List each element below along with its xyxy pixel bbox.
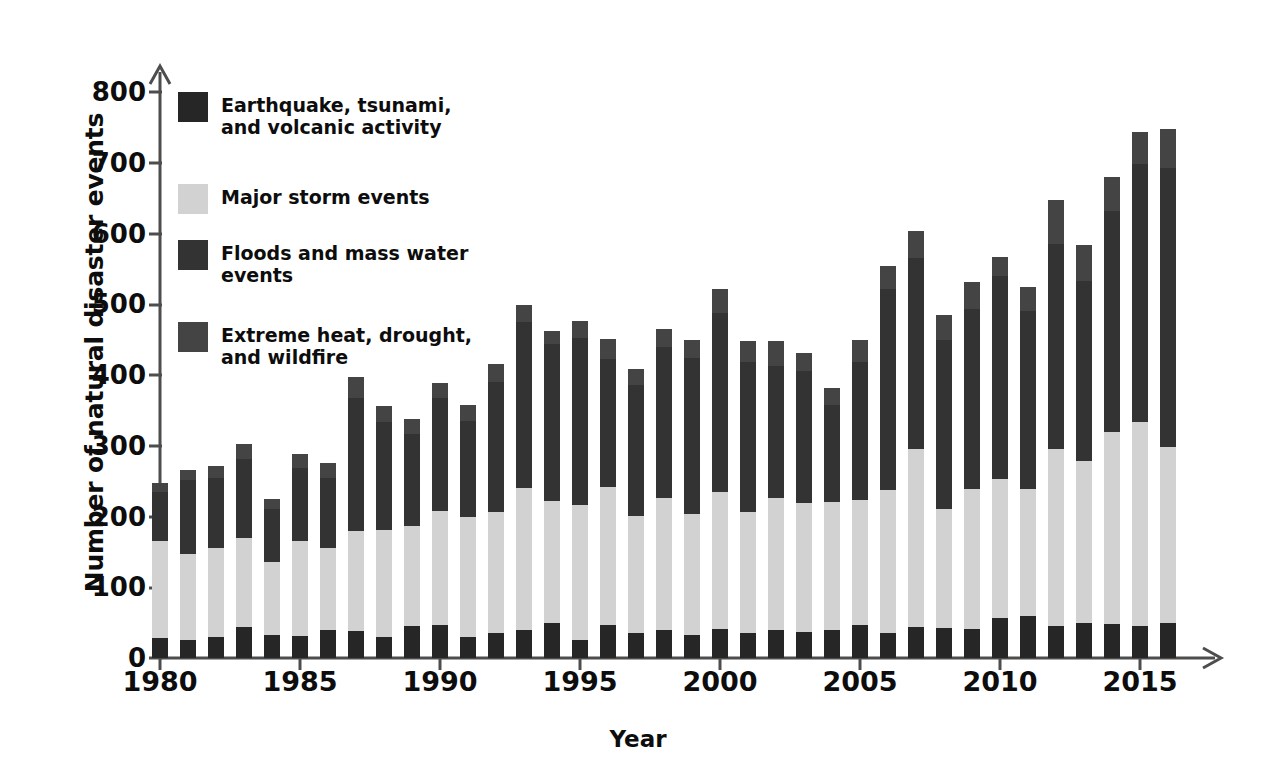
bar-segment-2000-s2	[712, 313, 728, 492]
bar-1983[interactable]	[236, 444, 252, 658]
bar-2013[interactable]	[1076, 245, 1092, 658]
bar-1987[interactable]	[348, 377, 364, 658]
bar-segment-2010-s2	[992, 276, 1008, 479]
bar-segment-2000-s1	[712, 492, 728, 629]
legend-item-1[interactable]: Major storm events	[178, 184, 430, 214]
bar-segment-1990-s3	[432, 383, 448, 398]
bar-1996[interactable]	[600, 339, 616, 658]
bar-segment-2012-s3	[1048, 200, 1064, 244]
bar-2010[interactable]	[992, 257, 1008, 658]
bar-segment-2003-s0	[796, 632, 812, 658]
bar-segment-1993-s2	[516, 322, 532, 488]
bar-1980[interactable]	[152, 483, 168, 658]
bar-segment-1985-s2	[292, 468, 308, 542]
bar-segment-1991-s3	[460, 405, 476, 421]
bar-segment-2013-s3	[1076, 245, 1092, 281]
bar-segment-1994-s1	[544, 501, 560, 623]
bar-2001[interactable]	[740, 341, 756, 658]
bar-2011[interactable]	[1020, 287, 1036, 658]
bar-1995[interactable]	[572, 321, 588, 658]
x-tick-label-2000: 2000	[660, 666, 780, 697]
legend-item-2[interactable]: Floods and mass water events	[178, 240, 468, 286]
legend-item-0[interactable]: Earthquake, tsunami, and volcanic activi…	[178, 92, 451, 138]
bar-segment-2007-s2	[908, 258, 924, 450]
bar-segment-1991-s1	[460, 517, 476, 637]
bar-2002[interactable]	[768, 341, 784, 658]
bar-2003[interactable]	[796, 353, 812, 658]
x-tick-label-2005: 2005	[800, 666, 920, 697]
bar-2015[interactable]	[1132, 132, 1148, 658]
bar-segment-2014-s2	[1104, 211, 1120, 432]
bar-segment-1983-s3	[236, 444, 252, 458]
bar-segment-1996-s1	[600, 487, 616, 626]
bar-1994[interactable]	[544, 331, 560, 658]
bar-segment-1995-s1	[572, 505, 588, 640]
bar-segment-2001-s1	[740, 512, 756, 633]
bar-segment-1996-s3	[600, 339, 616, 360]
bar-1998[interactable]	[656, 329, 672, 658]
bar-segment-2011-s2	[1020, 311, 1036, 489]
bar-2000[interactable]	[712, 289, 728, 658]
bar-2008[interactable]	[936, 315, 952, 658]
bar-segment-2009-s3	[964, 282, 980, 309]
bar-1989[interactable]	[404, 419, 420, 658]
bar-segment-2013-s1	[1076, 461, 1092, 622]
bar-1993[interactable]	[516, 305, 532, 658]
bar-segment-1983-s0	[236, 627, 252, 658]
bar-2016[interactable]	[1160, 129, 1176, 658]
bar-segment-2007-s0	[908, 627, 924, 658]
bar-segment-1982-s0	[208, 637, 224, 658]
bar-segment-2008-s2	[936, 340, 952, 509]
bar-segment-2004-s2	[824, 405, 840, 503]
bar-1997[interactable]	[628, 369, 644, 658]
bar-segment-2016-s3	[1160, 129, 1176, 168]
bar-segment-1985-s3	[292, 454, 308, 468]
legend-swatch-earthquake	[178, 92, 208, 122]
legend-swatch-heat	[178, 322, 208, 352]
bar-segment-2009-s2	[964, 309, 980, 489]
bar-segment-1998-s0	[656, 630, 672, 658]
bar-segment-1995-s3	[572, 321, 588, 338]
bar-segment-1998-s3	[656, 329, 672, 347]
bar-segment-2007-s1	[908, 449, 924, 627]
bar-2009[interactable]	[964, 282, 980, 658]
bar-2004[interactable]	[824, 388, 840, 658]
bar-segment-1989-s2	[404, 434, 420, 526]
bar-segment-2006-s1	[880, 490, 896, 633]
bar-segment-1980-s0	[152, 638, 168, 658]
bar-segment-1997-s2	[628, 385, 644, 516]
bar-1981[interactable]	[180, 470, 196, 658]
bar-segment-1997-s1	[628, 516, 644, 633]
bar-segment-2006-s3	[880, 266, 896, 289]
bar-1986[interactable]	[320, 463, 336, 658]
bar-segment-1987-s0	[348, 631, 364, 658]
legend-item-3[interactable]: Extreme heat, drought, and wildfire	[178, 322, 472, 368]
bar-segment-1980-s3	[152, 483, 168, 493]
bar-2006[interactable]	[880, 266, 896, 658]
bar-1991[interactable]	[460, 405, 476, 658]
bar-1982[interactable]	[208, 466, 224, 658]
x-tick-label-2015: 2015	[1080, 666, 1200, 697]
bar-segment-1992-s1	[488, 512, 504, 634]
bar-1999[interactable]	[684, 340, 700, 658]
bar-segment-2015-s1	[1132, 422, 1148, 626]
bar-1984[interactable]	[264, 499, 280, 658]
bar-1988[interactable]	[376, 406, 392, 658]
bar-segment-2001-s2	[740, 362, 756, 511]
bar-segment-1987-s1	[348, 531, 364, 631]
bar-2007[interactable]	[908, 231, 924, 658]
bar-1985[interactable]	[292, 454, 308, 658]
legend-label-1: Major storm events	[221, 186, 430, 208]
bar-segment-1982-s2	[208, 478, 224, 548]
bar-segment-2013-s2	[1076, 281, 1092, 461]
bar-segment-1994-s0	[544, 623, 560, 658]
bar-1992[interactable]	[488, 364, 504, 658]
bar-2014[interactable]	[1104, 177, 1120, 658]
bar-1990[interactable]	[432, 383, 448, 658]
bar-2012[interactable]	[1048, 200, 1064, 658]
bar-2005[interactable]	[852, 340, 868, 658]
bar-segment-1998-s2	[656, 347, 672, 498]
bar-segment-2014-s0	[1104, 624, 1120, 658]
bar-segment-1999-s2	[684, 358, 700, 514]
bar-segment-1999-s0	[684, 635, 700, 658]
